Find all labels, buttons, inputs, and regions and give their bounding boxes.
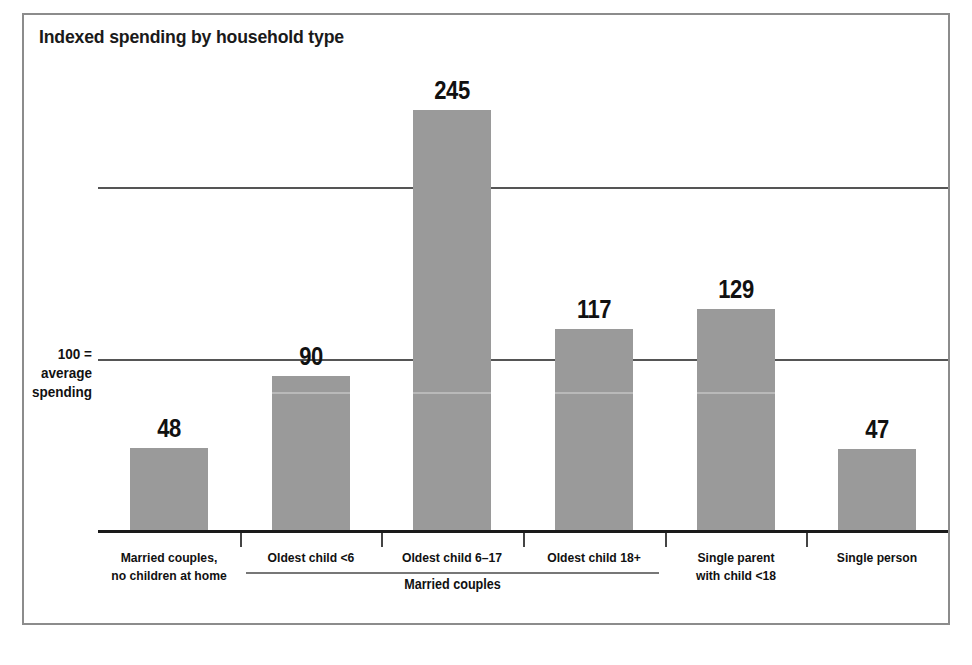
gridline-200 [98, 187, 948, 189]
axis-note-line-2: average [9, 363, 92, 382]
category-label-5: Single parentwith child <18 [655, 549, 817, 585]
axis-reference-note: 100 = average spending [9, 344, 92, 401]
bar-value-label-2: 90 [258, 342, 364, 371]
axis-tick-5 [806, 533, 808, 547]
category-label-2: Oldest child <6 [230, 549, 392, 567]
category-label-6: Single person [796, 549, 958, 567]
category-label-line-1: Single parent [655, 549, 817, 567]
bar-3 [413, 110, 491, 530]
bar-value-label-1: 48 [116, 414, 222, 443]
bar-value-label-5: 129 [683, 275, 789, 304]
axis-tick-2 [381, 533, 383, 547]
bar-value-label-6: 47 [824, 415, 930, 444]
category-label-1: Married couples,no children at home [88, 549, 250, 585]
axis-tick-4 [665, 533, 667, 547]
group-bracket-label: Married couples [266, 576, 638, 592]
category-label-line-2: with child <18 [655, 567, 817, 585]
category-label-line-1: Single person [796, 549, 958, 567]
bar-texture-line [555, 392, 633, 394]
bar-texture-line [413, 392, 491, 394]
category-label-line-1: Oldest child 6–17 [371, 549, 533, 567]
chart-figure: Indexed spending by household type 100 =… [0, 0, 972, 665]
bar-value-label-4: 117 [541, 295, 647, 324]
bar-4 [555, 329, 633, 530]
bar-2 [272, 376, 350, 530]
bar-value-label-3: 245 [399, 76, 505, 105]
category-label-line-1: Oldest child <6 [230, 549, 392, 567]
bar-1 [130, 448, 208, 530]
axis-note-line-1: 100 = [9, 344, 92, 363]
axis-tick-3 [523, 533, 525, 547]
category-label-line-2: no children at home [88, 567, 250, 585]
bar-texture-line [272, 392, 350, 394]
axis-tick-1 [240, 533, 242, 547]
category-label-4: Oldest child 18+ [513, 549, 675, 567]
axis-note-line-3: spending [9, 382, 92, 401]
bar-6 [838, 449, 916, 530]
category-label-line-1: Oldest child 18+ [513, 549, 675, 567]
bar-5 [697, 309, 775, 530]
plot-area [98, 40, 948, 531]
category-label-line-1: Married couples, [88, 549, 250, 567]
category-label-3: Oldest child 6–17 [371, 549, 533, 567]
gridline-100 [98, 359, 948, 361]
group-bracket-line [246, 572, 659, 574]
bar-texture-line [697, 392, 775, 394]
